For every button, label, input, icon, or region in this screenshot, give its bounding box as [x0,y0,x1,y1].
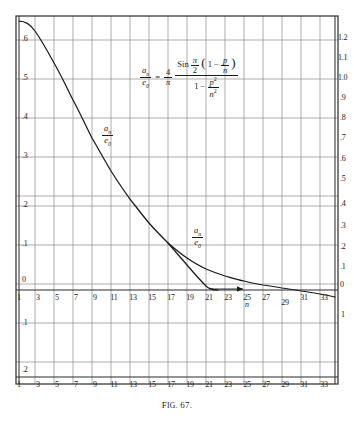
x-tick-bottom: 1 [17,381,21,389]
fraction-numerator: an [102,124,113,135]
y-right-tick: .8 [340,114,346,122]
y-right-tick: 0 [340,281,344,289]
x-tick: 27 [262,294,270,302]
x-tick: 15 [148,294,156,302]
y-right-tick: 1.0 [338,74,347,82]
x-tick-bottom: 5 [55,381,59,389]
x-tick-bottom: 23 [224,381,232,389]
y-right-tick: .4 [340,200,346,208]
x-tick-bottom: 25 [243,381,251,389]
x-tick: 17 [167,294,175,302]
x-tick: 3 [36,294,40,302]
fraction-an-e0: an e0 [192,226,203,249]
x-tick-bottom: 21 [205,381,213,389]
x-tick: 23 [224,294,232,302]
x-tick: 19 [186,294,194,302]
x-tick: 1 [17,294,21,302]
axis-lines [16,290,338,377]
x-tick: 7 [74,294,78,302]
formula-lhs: an e0 [140,66,151,89]
x-tick-bottom: 13 [129,381,137,389]
y-right-tick: 1.1 [338,54,347,62]
curve-label-lower: an e0 [192,226,203,249]
y-left-tick: .2 [22,201,28,209]
caption-number: 67. [180,400,192,410]
y-right-tick: 1.2 [338,34,347,42]
formula-rhs-denominator: 1 − p2 n2 [175,75,237,99]
x-tick-bottom: 11 [110,381,117,389]
y-left-tick: .3 [22,152,28,160]
figure-caption: FIG. 67. [0,400,354,410]
formula-coefficient: 4 π [164,68,172,87]
y-left-tick-negative: .1 [22,319,28,327]
x-tick-bottom: 29 [281,381,289,389]
x-axis-arrow [211,286,243,292]
x-tick: 9 [93,294,97,302]
x-axis-variable-label: n [245,300,249,309]
x-tick: 33 [320,294,328,302]
x-tick: 21 [205,294,213,302]
y-right-tick-negative: 1 [341,311,345,319]
x-tick: 31 [300,294,308,302]
fraction-denominator: e0 [192,237,203,249]
y-right-tick: .3 [340,222,346,230]
x-tick-bottom: 31 [300,381,308,389]
x-tick: 13 [129,294,137,302]
x-tick: 29 [281,299,289,307]
x-tick: 5 [55,294,59,302]
fraction-an-e0: an e0 [102,124,113,147]
caption-smallcaps: IG. [167,401,178,410]
x-tick-bottom: 33 [320,381,328,389]
y-left-tick: .5 [22,74,28,82]
x-tick-bottom: 19 [186,381,194,389]
x-tick-bottom: 7 [74,381,78,389]
fraction-numerator: an [192,226,203,237]
y-left-tick-negative: .2 [22,366,28,374]
y-right-tick: .1 [340,263,346,271]
formula-rhs-numerator: Sin π 2 ( 1 − p n ) [175,56,237,75]
formula-annotation: an e0 = 4 π Sin π 2 ( 1 − p n ) [140,56,238,98]
y-left-tick: .6 [22,35,28,43]
x-tick: 11 [110,294,117,302]
y-right-tick: .6 [340,155,346,163]
y-left-tick: .1 [22,240,28,248]
y-right-tick: .5 [340,175,346,183]
y-left-tick: .4 [22,113,28,121]
figure-67: .6 .5 .4 .3 .2 .1 0 .1 .2 1.2 1.1 1.0 .9… [0,0,354,424]
x-tick-bottom: 9 [93,381,97,389]
y-right-tick: .2 [340,243,346,251]
formula-equals: = [154,72,161,82]
fraction-denominator: e0 [102,135,113,147]
x-tick-bottom: 27 [262,381,270,389]
y-left-tick: 0 [22,276,26,284]
x-tick-bottom: 3 [36,381,40,389]
x-tick-bottom: 17 [167,381,175,389]
y-right-tick: .9 [340,94,346,102]
y-right-tick: .7 [340,134,346,142]
x-tick-bottom: 15 [148,381,156,389]
formula-rhs-quotient: Sin π 2 ( 1 − p n ) 1 − p2 n2 [175,56,237,98]
curve-label-upper: an e0 [102,124,113,147]
